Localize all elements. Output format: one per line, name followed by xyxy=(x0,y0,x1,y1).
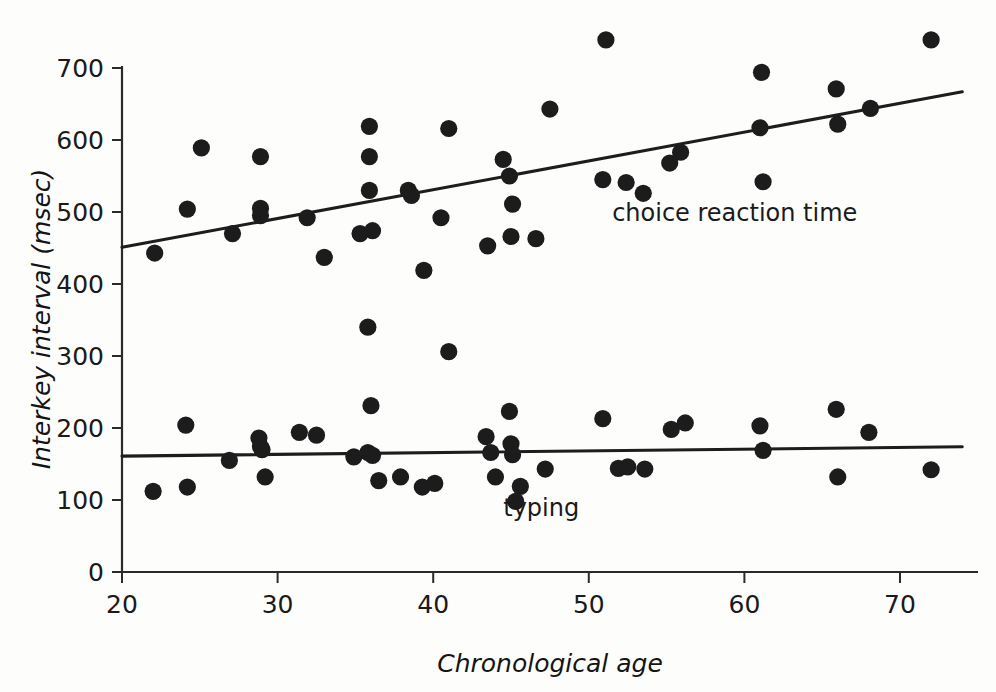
data-point xyxy=(370,472,387,489)
data-point xyxy=(179,478,196,495)
data-point xyxy=(478,428,495,445)
x-tick-label: 40 xyxy=(417,590,449,619)
data-point xyxy=(753,64,770,81)
data-point xyxy=(316,249,333,266)
y-tick-label: 700 xyxy=(56,54,104,83)
y-tick-label: 100 xyxy=(56,486,104,515)
data-point xyxy=(504,195,521,212)
data-point xyxy=(145,483,162,500)
series-layer xyxy=(122,31,962,510)
data-point xyxy=(537,460,554,477)
data-point xyxy=(440,120,457,137)
data-point xyxy=(432,209,449,226)
data-point xyxy=(359,319,376,336)
data-point xyxy=(618,174,635,191)
scatter-plot-figure: 0100200300400500600700 203040506070 Inte… xyxy=(0,0,996,692)
data-point xyxy=(828,401,845,418)
data-point xyxy=(923,461,940,478)
y-axis-title: Interkey interval (msec) xyxy=(27,169,56,470)
data-point xyxy=(594,171,611,188)
y-tick-label: 600 xyxy=(56,126,104,155)
data-point xyxy=(361,182,378,199)
x-tick-label: 50 xyxy=(573,590,605,619)
y-tick-label: 300 xyxy=(56,342,104,371)
data-point xyxy=(829,116,846,133)
data-point xyxy=(597,31,614,48)
series-label-typing: typing xyxy=(503,494,579,522)
y-tick-label: 400 xyxy=(56,270,104,299)
data-point xyxy=(362,397,379,414)
x-axis-ticks: 203040506070 xyxy=(106,572,916,619)
x-axis-title: Chronological age xyxy=(437,649,663,678)
data-point xyxy=(504,446,521,463)
data-point xyxy=(361,118,378,135)
y-axis-ticks: 0100200300400500600700 xyxy=(56,54,122,587)
data-point xyxy=(177,417,194,434)
data-point xyxy=(364,447,381,464)
data-point xyxy=(440,343,457,360)
data-point xyxy=(502,228,519,245)
plot-canvas: 0100200300400500600700 203040506070 Inte… xyxy=(0,0,996,692)
data-point xyxy=(479,237,496,254)
y-tick-label: 500 xyxy=(56,198,104,227)
data-point xyxy=(495,151,512,168)
data-point xyxy=(754,173,771,190)
data-point xyxy=(415,262,432,279)
x-tick-label: 70 xyxy=(884,590,916,619)
data-point xyxy=(677,414,694,431)
data-point xyxy=(860,424,877,441)
data-point xyxy=(541,100,558,117)
data-point xyxy=(291,424,308,441)
x-tick-label: 60 xyxy=(728,590,760,619)
x-tick-label: 30 xyxy=(262,590,294,619)
data-point xyxy=(594,410,611,427)
data-point xyxy=(193,139,210,156)
data-point xyxy=(308,427,325,444)
data-point xyxy=(146,244,163,261)
data-point xyxy=(751,417,768,434)
data-point xyxy=(257,468,274,485)
data-point xyxy=(619,458,636,475)
data-point xyxy=(923,31,940,48)
data-point xyxy=(179,201,196,218)
data-point xyxy=(527,230,544,247)
data-point xyxy=(829,468,846,485)
data-point xyxy=(487,468,504,485)
data-point xyxy=(828,80,845,97)
data-point xyxy=(361,148,378,165)
x-tick-label: 20 xyxy=(106,590,138,619)
data-point xyxy=(364,222,381,239)
series-label-layer: choice reaction timetyping xyxy=(503,199,857,521)
y-tick-label: 200 xyxy=(56,414,104,443)
data-point xyxy=(392,468,409,485)
regression-line-typing xyxy=(122,447,962,456)
data-point xyxy=(501,403,518,420)
data-point xyxy=(426,475,443,492)
y-tick-label: 0 xyxy=(88,558,104,587)
series-label-choice-reaction-time: choice reaction time xyxy=(612,199,857,227)
data-point xyxy=(636,460,653,477)
data-point xyxy=(512,478,529,495)
data-point xyxy=(252,148,269,165)
